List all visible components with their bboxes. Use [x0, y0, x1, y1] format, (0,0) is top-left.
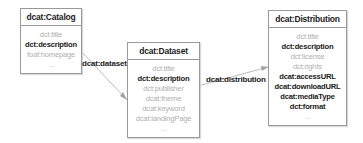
attribute: dct:rights — [269, 62, 346, 72]
attribute: dcat:landingPage — [128, 114, 199, 124]
node-title: dcat:Dataset — [128, 43, 199, 60]
node-dataset[interactable]: dcat:Dataset dct:title dct:description d… — [127, 42, 200, 138]
attribute: dcat:theme — [128, 94, 199, 104]
attribute: dct:title — [21, 30, 81, 40]
attribute: ... — [21, 60, 81, 70]
node-catalog[interactable]: dcat:Catalog dct:title dct:description f… — [20, 8, 82, 74]
attribute: dcat:keyword — [128, 104, 199, 114]
attribute: ... — [269, 112, 346, 122]
edge-catalog-dataset — [80, 50, 127, 100]
attribute: dct:description — [269, 42, 346, 52]
attribute: dcat:mediaType — [269, 92, 346, 102]
attribute: dcat:accessURL — [269, 72, 346, 82]
attribute: dct:title — [128, 64, 199, 74]
edge-label-distribution: dcat:distribution — [206, 75, 266, 84]
node-title: dcat:Catalog — [21, 9, 81, 26]
edge-label-dataset: dcat:dataset — [82, 59, 127, 68]
attribute: dct:title — [269, 32, 346, 42]
arrowhead-icon — [261, 66, 268, 71]
attribute: foaf:homepage — [21, 50, 81, 60]
node-distribution[interactable]: dcat:Distribution dct:title dct:descript… — [268, 10, 347, 126]
attribute: dct:format — [269, 102, 346, 112]
node-title: dcat:Distribution — [269, 11, 346, 28]
attribute: dct:publisher — [128, 84, 199, 94]
attribute: dct:description — [128, 74, 199, 84]
attribute: dct:license — [269, 52, 346, 62]
attribute: dct:description — [21, 40, 81, 50]
attribute: dcat:downloadURL — [269, 82, 346, 92]
attribute: ... — [128, 124, 199, 134]
